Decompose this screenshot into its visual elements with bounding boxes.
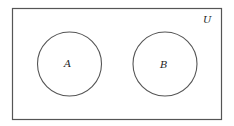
set-b-label: B — [159, 59, 167, 70]
universe-label: U — [203, 14, 212, 25]
universe-rectangle — [13, 9, 222, 120]
venn-diagram: U A B — [0, 0, 234, 126]
set-a-label: A — [63, 58, 71, 69]
